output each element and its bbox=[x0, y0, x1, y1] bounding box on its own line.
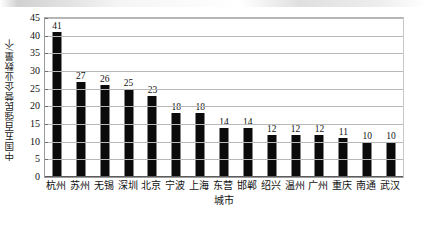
y-tick-mark bbox=[45, 89, 48, 90]
gridline bbox=[45, 106, 403, 107]
x-tick-label: 南通 bbox=[356, 180, 376, 191]
bar-value-label: 12 bbox=[291, 124, 301, 134]
bar-value-label: 18 bbox=[195, 103, 205, 113]
x-axis-tick-labels: 杭州苏州无锡深圳北京宁波上海东营邯郸绍兴温州广州重庆南通武汉 bbox=[44, 180, 404, 196]
gridline bbox=[45, 18, 403, 19]
y-tick-label: 45 bbox=[30, 13, 40, 23]
bar bbox=[100, 85, 109, 177]
bars-layer: 412726252318181414121212111010 bbox=[45, 18, 403, 177]
y-tick-mark bbox=[45, 177, 48, 178]
gridline bbox=[45, 71, 403, 72]
x-axis-title-text: 城市 bbox=[214, 195, 234, 206]
y-tick-label: 40 bbox=[30, 31, 40, 41]
bar-chart-figure: 中国五百强民营企业数量/个 051015202530354045 4127262… bbox=[0, 0, 427, 230]
x-tick-label: 北京 bbox=[141, 180, 161, 191]
x-axis-title: 城市 bbox=[44, 195, 404, 206]
gridline bbox=[45, 159, 403, 160]
y-tick-label: 20 bbox=[30, 101, 40, 111]
bar-value-label: 14 bbox=[243, 117, 253, 127]
bar-value-label: 12 bbox=[267, 124, 277, 134]
y-tick-label: 30 bbox=[30, 66, 40, 76]
bar-value-label: 18 bbox=[172, 103, 182, 113]
bar-value-label: 41 bbox=[52, 22, 62, 32]
y-axis-title: 中国五百强民营企业数量/个 bbox=[3, 18, 19, 180]
bar-value-label: 14 bbox=[219, 117, 229, 127]
y-tick-mark bbox=[45, 53, 48, 54]
x-tick-label: 重庆 bbox=[332, 180, 352, 191]
x-tick-label: 上海 bbox=[189, 180, 209, 191]
bar-value-label: 10 bbox=[386, 131, 396, 141]
y-tick-label: 10 bbox=[30, 137, 40, 147]
scan-artifact bbox=[0, 0, 427, 7]
gridline bbox=[45, 53, 403, 54]
y-tick-label: 5 bbox=[35, 154, 40, 164]
bar bbox=[172, 113, 181, 177]
bar-value-label: 25 bbox=[124, 78, 134, 88]
y-tick-label: 25 bbox=[30, 84, 40, 94]
y-tick-mark bbox=[45, 71, 48, 72]
gridline bbox=[45, 142, 403, 143]
bar bbox=[76, 82, 85, 177]
y-axis-title-text: 中国五百强民营企业数量/个 bbox=[6, 38, 16, 161]
x-tick-label: 宁波 bbox=[165, 180, 185, 191]
x-tick-label: 温州 bbox=[285, 180, 305, 191]
y-tick-mark bbox=[45, 124, 48, 125]
x-tick-label: 无锡 bbox=[94, 180, 114, 191]
x-tick-label: 东营 bbox=[213, 180, 233, 191]
bar-value-label: 11 bbox=[339, 128, 348, 138]
bar-value-label: 27 bbox=[76, 71, 86, 81]
x-tick-label: 杭州 bbox=[46, 180, 66, 191]
y-tick-label: 15 bbox=[30, 119, 40, 129]
y-tick-label: 0 bbox=[35, 172, 40, 182]
y-tick-label: 35 bbox=[30, 48, 40, 58]
gridline bbox=[45, 124, 403, 125]
bar bbox=[220, 128, 229, 177]
bar bbox=[243, 128, 252, 177]
bar-value-label: 26 bbox=[100, 75, 110, 85]
y-axis-tick-labels: 051015202530354045 bbox=[20, 17, 42, 178]
gridline bbox=[45, 89, 403, 90]
x-tick-label: 绍兴 bbox=[261, 180, 281, 191]
x-tick-label: 深圳 bbox=[118, 180, 138, 191]
y-tick-mark bbox=[45, 106, 48, 107]
gridline bbox=[45, 36, 403, 37]
x-tick-label: 广州 bbox=[308, 180, 328, 191]
x-tick-label: 苏州 bbox=[70, 180, 90, 191]
y-tick-mark bbox=[45, 36, 48, 37]
y-tick-mark bbox=[45, 142, 48, 143]
bar bbox=[148, 96, 157, 177]
y-tick-mark bbox=[45, 18, 48, 19]
bar bbox=[196, 113, 205, 177]
bar-value-label: 10 bbox=[362, 131, 372, 141]
bar bbox=[339, 138, 348, 177]
plot-area: 412726252318181414121212111010 bbox=[44, 17, 404, 178]
x-tick-label: 武汉 bbox=[380, 180, 400, 191]
bar-value-label: 23 bbox=[148, 85, 158, 95]
x-axis-baseline bbox=[45, 176, 403, 177]
bar bbox=[124, 89, 133, 177]
y-tick-mark bbox=[45, 159, 48, 160]
x-tick-label: 邯郸 bbox=[237, 180, 257, 191]
bar-value-label: 12 bbox=[315, 124, 325, 134]
